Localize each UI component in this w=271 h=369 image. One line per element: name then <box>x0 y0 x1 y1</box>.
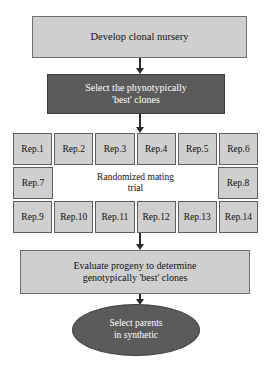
rep-cell: Rep.12 <box>137 201 176 233</box>
arrow-shaft <box>139 114 141 127</box>
rep-cell: Rep.6 <box>219 133 258 165</box>
rep-cell: Rep.14 <box>219 201 258 233</box>
rep-cell: Rep.11 <box>95 201 134 233</box>
node-parents-text: Select parents in synthetic <box>109 318 162 342</box>
node-evaluate-text: Evaluate progeny to determine genotypica… <box>73 260 196 285</box>
rep-cell: Rep.5 <box>178 133 217 165</box>
rep-cell: Rep.4 <box>137 133 176 165</box>
rep-row-bottom: Rep.9 Rep.10 Rep.11 Rep.12 Rep.13 Rep.14 <box>13 201 258 233</box>
node-parents-line2: in synthetic <box>109 330 162 342</box>
arrow-select-to-grid-icon <box>135 114 145 133</box>
node-evaluate-line1: Evaluate progeny to determine <box>73 260 196 273</box>
randomized-mating-trial-grid: Rep.1 Rep.2 Rep.3 Rep.4 Rep.5 Rep.6 Rep.… <box>13 133 258 233</box>
node-develop-label: Develop clonal nursery <box>91 30 189 43</box>
node-select-text: Select the phynotypically 'best' clones <box>85 82 187 107</box>
arrow-develop-to-select-icon <box>135 58 145 74</box>
node-parents-line1: Select parents <box>109 318 162 330</box>
node-develop-clonal-nursery: Develop clonal nursery <box>32 16 247 58</box>
rep-cell: Rep.8 <box>218 167 258 199</box>
node-select-phenotypic: Select the phynotypically 'best' clones <box>47 74 225 114</box>
node-evaluate-progeny: Evaluate progeny to determine genotypica… <box>20 250 250 294</box>
arrow-shaft <box>139 58 141 68</box>
rep-cell: Rep.2 <box>54 133 93 165</box>
rep-cell: Rep.9 <box>13 201 52 233</box>
node-select-parents-synthetic: Select parents in synthetic <box>72 304 200 356</box>
node-select-line1: Select the phynotypically <box>85 82 187 95</box>
node-select-line2: 'best' clones <box>85 94 187 107</box>
rep-cell: Rep.7 <box>13 167 53 199</box>
arrow-grid-to-evaluate-icon <box>135 233 145 250</box>
node-mating-trial-label: Randomized mating trial <box>55 167 216 199</box>
mating-trial-line2: trial <box>97 183 174 194</box>
rep-cell: Rep.3 <box>95 133 134 165</box>
rep-row-top: Rep.1 Rep.2 Rep.3 Rep.4 Rep.5 Rep.6 <box>13 133 258 165</box>
rep-cell: Rep.10 <box>54 201 93 233</box>
rep-cell: Rep.1 <box>13 133 52 165</box>
rep-cell: Rep.13 <box>178 201 217 233</box>
node-evaluate-line2: genotypically 'best' clones <box>73 272 196 285</box>
arrow-shaft <box>139 233 141 244</box>
rep-row-middle: Rep.7 Randomized mating trial Rep.8 <box>13 167 258 199</box>
mating-trial-line1: Randomized mating <box>97 172 174 183</box>
